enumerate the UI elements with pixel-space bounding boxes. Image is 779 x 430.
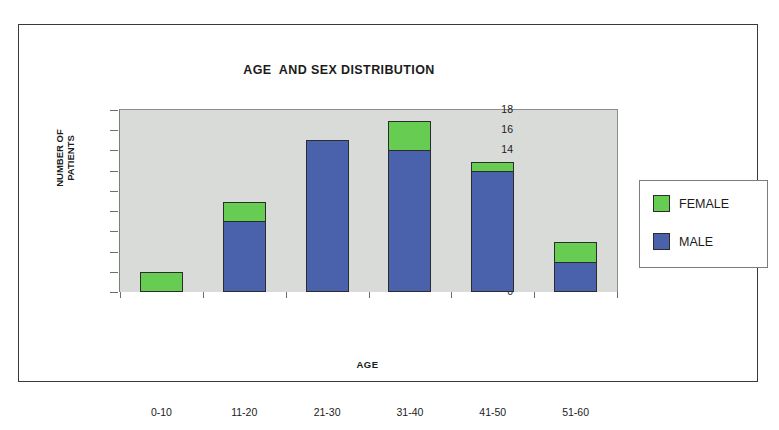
legend-label-male: MALE [679,235,713,249]
x-axis-title: AGE [119,359,616,370]
y-axis-tick [110,110,118,111]
bar-segment-male[interactable] [554,262,597,292]
y-axis-tick [110,191,118,192]
x-axis-tick [369,292,370,298]
x-axis-tick [120,292,121,298]
bar-group[interactable] [554,242,597,292]
legend-swatch-female [653,195,670,212]
y-axis-title: NUMBER OF PATIENTS [54,98,76,218]
y-axis-tick [110,130,118,131]
bar-group[interactable] [388,121,431,292]
y-axis-title-line-2: PATIENTS [65,98,76,218]
chart-title: AGE AND SEX DISTRIBUTION [19,63,659,77]
y-axis-tick [110,211,118,212]
x-axis-category-label: 0-10 [119,406,203,418]
bar-segment-male[interactable] [471,171,514,292]
legend-label-female: FEMALE [679,197,729,211]
bar-segment-female[interactable] [554,242,597,262]
x-axis-tick [286,292,287,298]
x-axis-tick [203,292,204,298]
bar-segment-female[interactable] [388,121,431,151]
y-axis-tick [110,231,118,232]
x-axis-category-label: 51-60 [534,406,618,418]
plot-area: 024681012141618 0-1011-2021-3031-4041-50… [119,109,618,292]
x-axis-tick [534,292,535,298]
y-axis-tick [110,272,118,273]
bar-segment-male[interactable] [306,140,349,292]
x-axis-category-label: 41-50 [451,406,535,418]
y-axis-tick-label: 14 [483,143,513,155]
x-axis-tick [617,292,618,298]
bar-group[interactable] [140,272,183,292]
bar-segment-male[interactable] [388,150,431,292]
legend-item-male: MALE [653,233,713,250]
y-axis-tick [110,292,118,293]
y-axis-tick [110,171,118,172]
bar-segment-female[interactable] [140,272,183,292]
x-axis-tick [451,292,452,298]
y-axis-tick [110,252,118,253]
y-axis-title-line-1: NUMBER OF [54,98,65,218]
x-axis-category-label: 11-20 [202,406,286,418]
y-axis-tick [110,150,118,151]
bar-group[interactable] [471,162,514,292]
bar-segment-male[interactable] [223,221,266,292]
x-axis-category-label: 21-30 [285,406,369,418]
bar-group[interactable] [306,140,349,292]
bar-segment-female[interactable] [223,202,266,222]
bar-group[interactable] [223,202,266,292]
legend-item-female: FEMALE [653,195,729,212]
x-axis-category-label: 31-40 [368,406,452,418]
chart-legend: FEMALE MALE [639,180,768,268]
chart-page-frame: AGE AND SEX DISTRIBUTION NUMBER OF PATIE… [18,24,758,382]
legend-swatch-male [653,233,670,250]
y-axis-tick-label: 18 [483,103,513,115]
y-axis-tick-label: 16 [483,123,513,135]
